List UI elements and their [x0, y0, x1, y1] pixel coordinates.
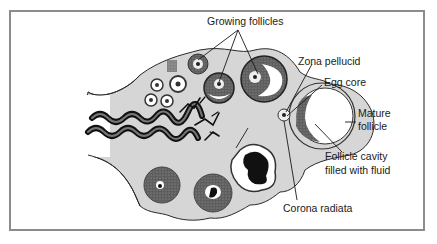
growing-follicle-medium	[204, 73, 234, 103]
label-growing-follicles: Growing follicles	[207, 15, 283, 27]
corpus-albicans-1	[144, 167, 180, 203]
label-mature-follicle-line1: Mature	[358, 107, 391, 119]
label-follicle-cavity-line1: Follicle cavity	[325, 150, 387, 162]
label-egg-core: Egg core	[324, 76, 366, 88]
label-corona-radiata: Corona radiata	[283, 202, 352, 214]
label-mature-follicle-line2: follicle	[358, 120, 387, 132]
label-follicle-cavity-line2: filled with fluid	[325, 164, 390, 176]
label-zona-pellucid: Zona pellucid	[298, 55, 360, 67]
growing-follicle-large	[241, 56, 287, 102]
growing-follicle-small	[188, 54, 208, 74]
corpus-albicans-2	[194, 174, 232, 212]
